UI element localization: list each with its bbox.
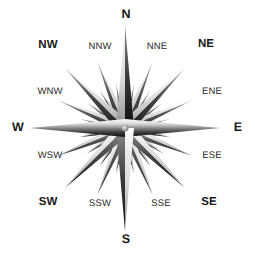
compass-label-se: SE (201, 197, 217, 209)
compass-label-ese: ESE (202, 151, 221, 161)
compass-ray (30, 119, 125, 137)
compass-label-nnw: NNW (89, 42, 112, 52)
compass-label-west: W (12, 121, 24, 134)
compass-label-sse: SSE (151, 199, 170, 209)
compass-label-ne: NE (198, 39, 214, 51)
compass-ray (125, 119, 220, 137)
compass-label-wsw: WSW (38, 151, 63, 161)
compass-label-wnw: WNW (37, 87, 62, 97)
compass-label-ene: ENE (202, 87, 222, 97)
compass-label-ssw: SSW (89, 199, 111, 209)
compass-label-nw: NW (38, 40, 57, 52)
compass-label-east: E (234, 121, 243, 134)
compass-label-south: S (122, 233, 131, 246)
compass-label-nne: NNE (147, 42, 167, 52)
compass-ray (116, 128, 134, 231)
compass-label-sw: SW (39, 197, 58, 209)
compass-label-north: N (121, 8, 130, 21)
compass-rose-figure: NNNENEENEEESESESSESSSWSWWSWWWNWNWNNW (0, 0, 255, 258)
compass-hub (122, 125, 129, 132)
compass-ray (116, 25, 134, 128)
